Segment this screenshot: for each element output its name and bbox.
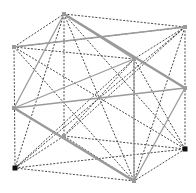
- vertex-m1: [12, 106, 16, 110]
- solid-edge-m2g: [134, 88, 185, 181]
- vertex-e: [62, 134, 66, 138]
- vertex-c: [132, 57, 136, 61]
- dashed-edge-hc: [15, 59, 134, 168]
- vertex-g: [132, 179, 136, 183]
- vertex-a: [62, 12, 66, 16]
- dashed-edge-hf: [15, 149, 185, 168]
- solid-edges: [14, 14, 185, 181]
- dashed-edge-bg: [134, 27, 185, 181]
- vertex-d: [12, 45, 16, 49]
- dashed-edge-ef: [64, 136, 185, 149]
- vertex-b: [183, 25, 187, 29]
- dashed-edge-he: [15, 136, 64, 168]
- vertex-f: [183, 147, 188, 152]
- dashed-edge-cd: [14, 47, 134, 59]
- vertex-h: [13, 166, 18, 171]
- dashed-edge-dg: [14, 47, 134, 181]
- vertex-m2: [183, 86, 187, 90]
- cube-diagram: [0, 0, 196, 193]
